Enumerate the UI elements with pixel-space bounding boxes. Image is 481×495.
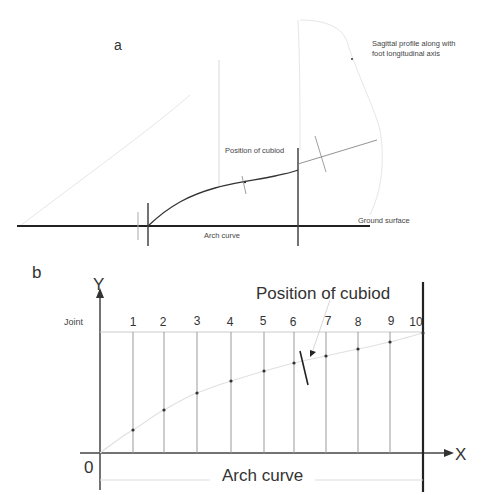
foot-outline — [20, 20, 382, 226]
joint-number-5: 5 — [260, 314, 267, 328]
origin-label: 0 — [84, 458, 93, 477]
arch-point-7 — [324, 354, 327, 357]
arch-point-6 — [292, 361, 295, 364]
arch-point-9 — [388, 340, 391, 343]
panel-a-label: a — [114, 37, 122, 53]
arch-point-2 — [162, 408, 165, 411]
profile-marker-dot — [351, 58, 353, 60]
joint-row-label: Joint — [64, 317, 84, 327]
cuboid-annotation-a: Position of cubiod — [225, 146, 284, 155]
joint-number-3: 3 — [194, 314, 201, 328]
profile-extension-line — [298, 140, 377, 164]
curve-dot — [244, 181, 246, 183]
arch-point-3 — [195, 391, 198, 394]
arch-points — [131, 331, 424, 431]
panel-a: a Sagittal profile along with foot longi… — [17, 20, 455, 246]
curve-tick-2 — [315, 136, 326, 172]
arch-point-8 — [356, 347, 359, 350]
ground-surface-annotation: Ground surface — [358, 216, 410, 225]
joint-number-4: 4 — [227, 315, 234, 329]
profile-annotation-line1: Sagittal profile along with — [372, 39, 455, 48]
joint-number-1: 1 — [130, 315, 137, 329]
joint-number-9: 9 — [388, 314, 395, 328]
joint-number-7: 7 — [325, 314, 332, 328]
curve-tick-1 — [242, 176, 246, 194]
arch-point-10 — [421, 331, 424, 334]
joint-numbers: 1 2 3 4 5 6 7 8 9 10 — [130, 314, 423, 329]
arch-curve-b — [100, 333, 423, 453]
arch-curve-label-b: Arch curve — [222, 466, 303, 485]
cuboid-pointer-arrow-icon — [310, 350, 316, 357]
arch-point-4 — [229, 379, 232, 382]
profile-annotation-line2: foot longitudinal axis — [372, 49, 440, 58]
y-axis-label: Y — [93, 275, 104, 294]
cuboid-label-b: Position of cubiod — [256, 284, 390, 303]
joint-number-6: 6 — [290, 315, 297, 329]
arch-curve-annotation-a: Arch curve — [204, 231, 240, 240]
joint-number-2: 2 — [160, 315, 167, 329]
joint-number-10: 10 — [409, 315, 423, 329]
x-axis-arrow-icon — [444, 449, 454, 457]
arch-curve-a — [148, 170, 298, 226]
panel-b-label: b — [32, 263, 41, 282]
arch-point-5 — [262, 369, 265, 372]
x-axis-label: X — [455, 445, 466, 464]
joint-number-8: 8 — [355, 315, 362, 329]
panel-b: b Y X 0 Joint 1 2 3 4 — [32, 263, 466, 492]
figure-canvas: a Sagittal profile along with foot longi… — [0, 0, 481, 495]
arch-point-1 — [131, 428, 134, 431]
cuboid-tick-b — [300, 351, 308, 385]
